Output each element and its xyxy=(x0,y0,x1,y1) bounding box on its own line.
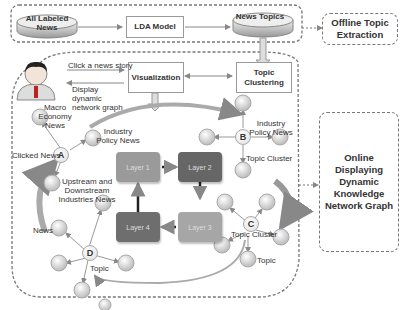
click-action-label: Click a news story xyxy=(68,61,132,70)
all-labeled-news-label: All Labeled News xyxy=(17,14,77,32)
online-display-label: Online Displaying Dynamic Knowledge Netw… xyxy=(319,112,399,252)
layer-4: Layer 4 xyxy=(116,212,160,242)
topic-c-label: Topic xyxy=(257,256,276,265)
topic-d-label: Topic xyxy=(90,264,109,273)
layer-1: Layer 1 xyxy=(116,152,160,182)
clicked-news-label: Clicked News xyxy=(12,151,60,160)
industry-policy-a-label: Industry Policy News xyxy=(93,127,143,145)
news-d-label: News xyxy=(33,226,53,235)
topic-cluster-b-label: Topic Cluster xyxy=(246,154,292,163)
industry-policy-b-label: Industry Policy News xyxy=(247,119,295,137)
lda-model-box: LDA Model xyxy=(126,16,184,38)
topic-cluster-c-label: Topic Cluster xyxy=(231,230,277,239)
offline-side-text: Offline Topic Extraction xyxy=(323,17,397,41)
lda-model-label: LDA Model xyxy=(134,22,175,32)
user-icon xyxy=(17,62,55,100)
topic-clustering-label: Topic Clustering xyxy=(237,68,291,88)
visualization-box: Visualization xyxy=(128,62,184,93)
display-action-label: Display dynamic network graph xyxy=(72,85,127,112)
news-topics-label: News Topics xyxy=(230,12,290,21)
topic-clustering-box: Topic Clustering xyxy=(236,62,292,93)
macro-economy-label: Macro Economy News xyxy=(30,103,80,130)
node-d: D xyxy=(82,245,98,261)
layer-3: Layer 3 xyxy=(178,212,222,242)
online-side-text: Online Displaying Dynamic Knowledge Netw… xyxy=(320,152,398,212)
layer-2: Layer 2 xyxy=(178,152,222,182)
offline-topic-extraction-label: Offline Topic Extraction xyxy=(322,13,398,45)
upstream-downstream-label: Upstream and Downstream Industries News xyxy=(58,177,116,204)
visualization-label: Visualization xyxy=(132,73,181,83)
